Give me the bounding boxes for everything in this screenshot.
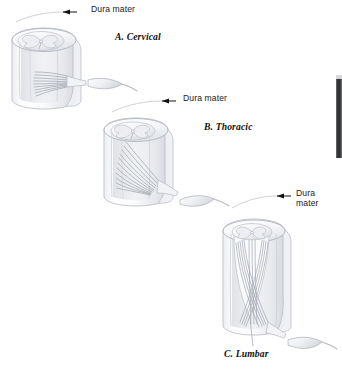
callout-curve-lumbar: [232, 196, 277, 208]
callout-arrow-cervical: [63, 9, 70, 14]
callout-label-dura-lumbar: Dura mater: [296, 189, 318, 208]
spinal-nerve-lumbar: [322, 342, 337, 349]
callout-arrow-thoracic: [162, 98, 169, 103]
edge-scrollbar-artifact[interactable]: [336, 79, 342, 158]
panel-thoracic: [104, 98, 229, 206]
callout-label-dura-thoracic: Dura mater: [183, 94, 227, 104]
callout-arrow-lumbar: [277, 193, 284, 198]
spinal-nerve-cervical: [122, 84, 137, 91]
panel-caption-thoracic: B. Thoracic: [204, 121, 253, 132]
dorsal-root-ganglion-thoracic: [180, 196, 214, 207]
dura-interior-shade-cervical: [21, 44, 67, 103]
dorsal-root-ganglion-lumbar: [288, 337, 322, 348]
central-canal-cervical: [40, 40, 43, 43]
callout-curve-cervical: [16, 12, 63, 22]
central-canal-thoracic: [132, 130, 135, 133]
panel-cervical: [12, 9, 137, 109]
central-canal-lumbar: [251, 231, 254, 234]
spinal-nerve-thoracic: [214, 199, 229, 206]
callout-label-dura-cervical: Dura mater: [91, 5, 135, 15]
callout-curve-thoracic: [112, 101, 162, 112]
panel-lumbar: [223, 193, 337, 349]
figure-page: Dura mater A. Cervical Dura mater B. Tho…: [0, 0, 342, 376]
panel-caption-cervical: A. Cervical: [115, 31, 161, 42]
panel-caption-lumbar: C. Lumbar: [224, 348, 269, 359]
spinal-anatomy-illustration: [0, 0, 342, 376]
dorsal-root-ganglion-cervical: [88, 78, 122, 88]
